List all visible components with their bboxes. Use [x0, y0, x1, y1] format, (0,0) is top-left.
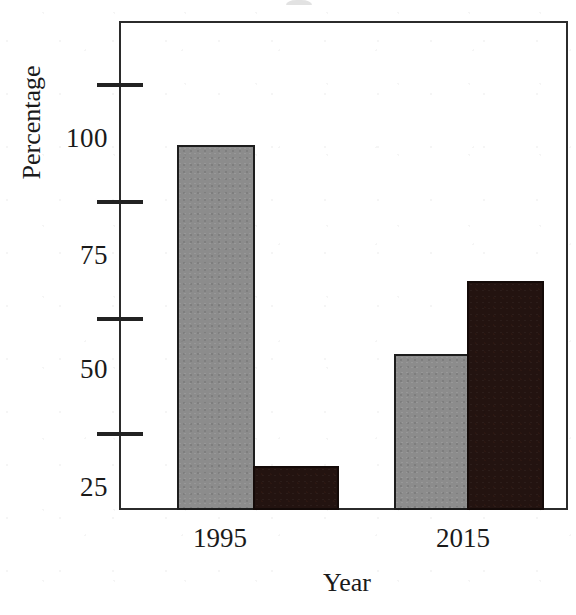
- bar-chart: 100 75 50 25 Percentage 1995 2015 Year: [0, 0, 576, 615]
- bar-2015-gray[interactable]: [394, 354, 469, 510]
- plot-area: [121, 23, 566, 510]
- x-tick-label-1995: 1995: [140, 524, 300, 554]
- x-tick-label-2015: 2015: [383, 524, 543, 554]
- y-tick-label-75: 75: [80, 242, 108, 269]
- bar-2015-dark[interactable]: [467, 281, 544, 510]
- bar-1995-gray[interactable]: [177, 145, 255, 510]
- y-tick-label-100: 100: [66, 125, 108, 152]
- y-axis-title: Percentage: [14, 0, 50, 430]
- bar-1995-dark[interactable]: [253, 466, 339, 510]
- x-axis-title: Year: [0, 568, 576, 598]
- y-tick-label-50: 50: [80, 356, 108, 383]
- clipped-title-remnant-icon: [286, 0, 312, 5]
- y-tick-label-25: 25: [80, 474, 108, 501]
